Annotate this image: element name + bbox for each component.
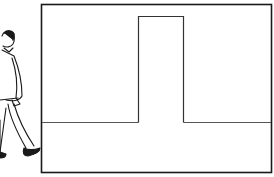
walking-man-figure (0, 31, 40, 158)
man-leg-front (14, 104, 34, 146)
man-shoe-back (0, 152, 6, 158)
man-leg-back (0, 108, 6, 152)
man-shoe-front (23, 148, 40, 156)
man-hair (4, 31, 14, 40)
illustration-canvas (0, 0, 274, 177)
outer-frame (42, 5, 272, 173)
doorway-outline (139, 17, 184, 123)
